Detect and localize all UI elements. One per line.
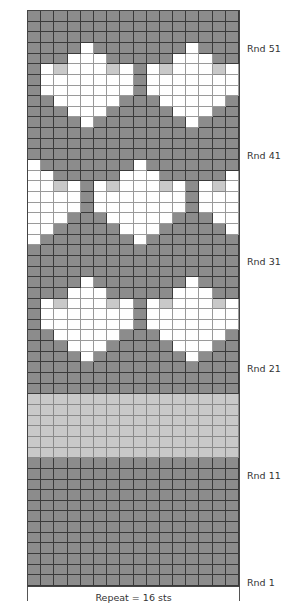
chart-cell [28, 533, 41, 544]
chart-cell [41, 224, 54, 235]
chart-cell [107, 448, 120, 459]
chart-cell [160, 416, 173, 427]
chart-cell [199, 480, 212, 491]
chart-cell [199, 575, 212, 586]
chart-cell [160, 575, 173, 586]
chart-cell [68, 224, 81, 235]
chart-cell [199, 224, 212, 235]
chart-cell [160, 43, 173, 54]
chart-cell [28, 235, 41, 246]
chart-cell [54, 352, 67, 363]
chart-cell [186, 309, 199, 320]
chart-cell [147, 437, 160, 448]
chart-cell [147, 565, 160, 576]
chart-cell [28, 405, 41, 416]
chart-cell [41, 565, 54, 576]
chart-cell [28, 575, 41, 586]
chart-cell [173, 533, 186, 544]
chart-cell [28, 330, 41, 341]
chart-cell [186, 86, 199, 97]
chart-cell [28, 96, 41, 107]
chart-cell [213, 224, 226, 235]
chart-cell [107, 224, 120, 235]
chart-cell [81, 575, 94, 586]
chart-cell [186, 64, 199, 75]
chart-cell [68, 75, 81, 86]
chart-cell [173, 54, 186, 65]
chart-cell [213, 543, 226, 554]
chart-cell [81, 192, 94, 203]
chart-cell [68, 139, 81, 150]
chart-cell [28, 437, 41, 448]
chart-cell [120, 352, 133, 363]
chart-cell [81, 511, 94, 522]
chart-cell [120, 32, 133, 43]
chart-cell [160, 405, 173, 416]
chart-cell [226, 117, 239, 128]
chart-cell [160, 160, 173, 171]
chart-cell [226, 54, 239, 65]
chart-cell [68, 469, 81, 480]
chart-cell [186, 575, 199, 586]
chart-cell [68, 490, 81, 501]
chart-cell [199, 341, 212, 352]
chart-cell [160, 192, 173, 203]
chart-cell [147, 11, 160, 22]
chart-cell [120, 373, 133, 384]
chart-cell [213, 171, 226, 182]
chart-cell [186, 32, 199, 43]
chart-cell [199, 245, 212, 256]
chart-cell [173, 277, 186, 288]
chart-cell [94, 352, 107, 363]
chart-cell [186, 480, 199, 491]
chart-cell [107, 11, 120, 22]
chart-cell [134, 171, 147, 182]
chart-cell [107, 139, 120, 150]
chart-cell [199, 267, 212, 278]
chart-cell [199, 309, 212, 320]
chart-cell [134, 341, 147, 352]
chart-cell [226, 75, 239, 86]
chart-cell [186, 139, 199, 150]
chart-cell [81, 267, 94, 278]
chart-cell [41, 554, 54, 565]
chart-cell [41, 139, 54, 150]
chart-cell [173, 362, 186, 373]
chart-cell [41, 267, 54, 278]
chart-cell [213, 416, 226, 427]
chart-cell [54, 469, 67, 480]
chart-cell [28, 181, 41, 192]
chart-cell [226, 32, 239, 43]
chart-cell [147, 256, 160, 267]
chart-cell [41, 245, 54, 256]
chart-cell [54, 75, 67, 86]
chart-cell [81, 11, 94, 22]
chart-cell [120, 288, 133, 299]
chart-cell [54, 575, 67, 586]
chart-cell [81, 54, 94, 65]
chart-cell [134, 256, 147, 267]
chart-cell [160, 96, 173, 107]
chart-cell [186, 117, 199, 128]
chart-cell [134, 267, 147, 278]
chart-cell [54, 288, 67, 299]
chart-cell [199, 448, 212, 459]
chart-cell [134, 32, 147, 43]
chart-cell [186, 565, 199, 576]
chart-cell [120, 224, 133, 235]
chart-cell [160, 330, 173, 341]
chart-cell [213, 75, 226, 86]
chart-cell [160, 22, 173, 33]
chart-cell [147, 171, 160, 182]
chart-cell [226, 469, 239, 480]
chart-cell [199, 235, 212, 246]
chart-cell [107, 522, 120, 533]
chart-cell [199, 426, 212, 437]
chart-cell [41, 330, 54, 341]
chart-cell [173, 128, 186, 139]
chart-cell [120, 171, 133, 182]
chart-cell [120, 309, 133, 320]
chart-cell [186, 490, 199, 501]
chart-cell [120, 64, 133, 75]
chart-cell [226, 277, 239, 288]
